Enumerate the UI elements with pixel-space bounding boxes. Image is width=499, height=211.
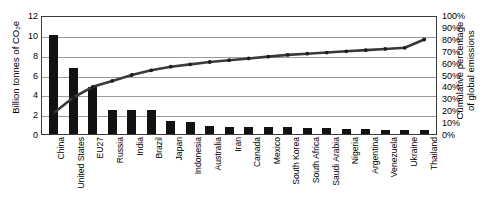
- y-tick-left: 10: [28, 31, 38, 41]
- cumulative-line-point: [208, 60, 212, 64]
- y-tick-left: 6: [33, 71, 38, 81]
- chart-figure: Billion tonnes of CO₂e 024681012 0%10%20…: [0, 0, 499, 211]
- x-axis-label-slot: South Korea: [278, 137, 298, 211]
- cumulative-line-point: [422, 38, 426, 42]
- cumulative-line-point: [227, 58, 231, 62]
- x-axis-label-slot: Argentina: [357, 137, 377, 211]
- x-axis-label-slot: India: [121, 137, 141, 211]
- cumulative-line-point: [305, 52, 309, 56]
- y-tick-left: 0: [33, 130, 38, 140]
- x-axis-label-slot: Mexico: [259, 137, 279, 211]
- cumulative-line-point: [364, 48, 368, 52]
- x-axis-label-slot: Russia: [102, 137, 122, 211]
- cumulative-line-point: [286, 53, 290, 57]
- cumulative-line-point: [110, 79, 114, 83]
- x-axis-label-slot: United States: [63, 137, 83, 211]
- cumulative-line: [54, 39, 424, 112]
- y-axis-left-ticks: 024681012: [16, 16, 40, 135]
- x-axis-label-slot: Indonesia: [180, 137, 200, 211]
- x-axis-label-slot: EU27: [82, 137, 102, 211]
- y-tick-left: 2: [33, 110, 38, 120]
- cumulative-line-point: [71, 96, 75, 100]
- cumulative-line-point: [383, 47, 387, 51]
- cumulative-line-point: [52, 111, 56, 115]
- x-axis-label-slot: Australia: [200, 137, 220, 211]
- x-axis-category-labels: ChinaUnited StatesEU27RussiaIndiaBrazilJ…: [41, 137, 437, 211]
- x-axis-label-slot: Ukraine: [396, 137, 416, 211]
- cumulative-line-point: [325, 51, 329, 55]
- x-axis-label: Thailand: [429, 137, 439, 170]
- y-tick-right: 0%: [442, 130, 455, 140]
- x-axis-label-slot: Brazil: [141, 137, 161, 211]
- cumulative-line-point: [344, 49, 348, 53]
- x-axis-label-slot: Venezuela: [376, 137, 396, 211]
- x-axis-label-slot: Nigeria: [337, 137, 357, 211]
- cumulative-line-point: [91, 85, 95, 89]
- plot-area: [41, 16, 437, 135]
- cumulative-line-point: [130, 73, 134, 77]
- cumulative-line-point: [247, 57, 251, 61]
- x-axis-label-slot: Thailand: [415, 137, 435, 211]
- y-axis-right-title: Cumulative percentage of global emission…: [455, 7, 476, 135]
- x-axis-label-slot: Canada: [239, 137, 259, 211]
- y-axis-right-title-line2: of global emissions: [466, 7, 477, 135]
- cumulative-line-point: [149, 68, 153, 72]
- y-tick-left: 12: [28, 11, 38, 21]
- y-tick-left: 4: [33, 90, 38, 100]
- x-axis-label-slot: South Africa: [298, 137, 318, 211]
- x-axis-label-slot: China: [43, 137, 63, 211]
- cumulative-line-point: [169, 65, 173, 69]
- y-tick-left: 8: [33, 51, 38, 61]
- y-axis-right-title-line1: Cumulative percentage: [454, 22, 465, 120]
- cumulative-line-point: [403, 46, 407, 50]
- x-axis-label-slot: Japan: [161, 137, 181, 211]
- x-axis-label-slot: Saudi Arabia: [317, 137, 337, 211]
- cumulative-line-series: [42, 17, 436, 135]
- cumulative-line-point: [188, 62, 192, 66]
- x-axis-label-slot: Iran: [219, 137, 239, 211]
- cumulative-line-point: [266, 55, 270, 59]
